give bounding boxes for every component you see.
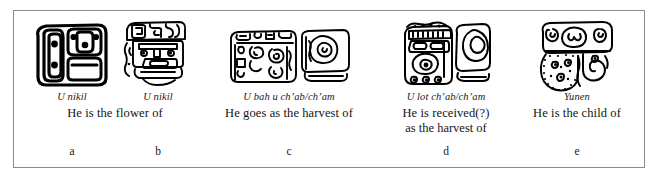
transliteration-d: U lot ch’ab/ch’am	[407, 91, 486, 102]
gloss-c: He goes as the harvest of	[225, 106, 353, 121]
transliteration-a: U nikil	[57, 91, 87, 102]
key-letter-d: d	[426, 145, 466, 157]
key-letter-a: a	[52, 145, 92, 157]
gloss-d-line1: He is received(?)	[402, 106, 489, 121]
glyph-u-bah-u-chab-cham	[227, 25, 351, 87]
gloss-ab: He is the flower of	[67, 106, 163, 121]
transliteration-c: U bah u ch’ab/ch’am	[243, 91, 334, 102]
gloss-e: He is the child of	[533, 106, 621, 121]
glyph-u-nikil-head-variant	[123, 19, 189, 91]
key-letter-e: e	[557, 145, 597, 157]
glyph-u-nikil-full-figure	[32, 20, 110, 90]
glyph-yunen	[533, 18, 621, 96]
figure-frame: U nikil U nikil U bah u ch’ab/ch’am U lo…	[13, 10, 645, 168]
key-letter-c: c	[269, 145, 309, 157]
glyph-u-lot-chab-cham	[399, 17, 493, 95]
key-letter-b: b	[138, 145, 178, 157]
gloss-d-line2: as the harvest of	[405, 121, 487, 136]
transliteration-e: Yunen	[564, 91, 590, 102]
transliteration-b: U nikil	[143, 91, 173, 102]
